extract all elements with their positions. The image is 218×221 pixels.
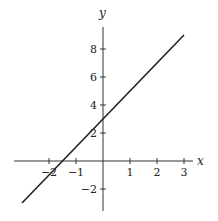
line-plot: −2−1123−22468 x y <box>0 0 218 221</box>
x-axis-label: x <box>197 154 204 168</box>
x-tick-label: −1 <box>68 166 84 179</box>
chart: −2−1123−22468 x y <box>0 0 218 221</box>
y-tick-label: −2 <box>81 183 97 196</box>
x-tick-label: −2 <box>41 166 57 179</box>
x-tick-label: 1 <box>127 166 134 179</box>
x-tick-label: 3 <box>181 166 188 179</box>
y-tick-label: 8 <box>90 43 97 56</box>
y-axis-label: y <box>98 6 106 20</box>
y-tick-label: 4 <box>90 99 97 112</box>
x-tick-label: 2 <box>154 166 161 179</box>
ticks: −2−1123−22468 <box>41 43 188 196</box>
y-tick-label: 6 <box>90 71 97 84</box>
